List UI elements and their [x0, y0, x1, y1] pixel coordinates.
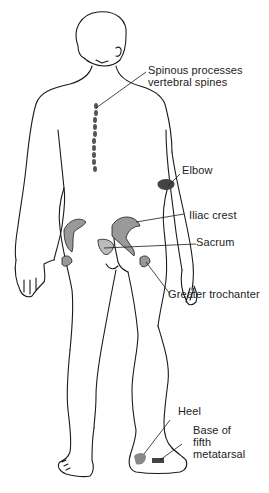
sacrum-shade [98, 239, 114, 254]
label-base-of-fifth-metatarsal: Base of fifth metatarsal [193, 424, 245, 460]
left-arm-inner [54, 130, 65, 260]
right-leg-outer [158, 326, 172, 448]
right-leg-inner [128, 272, 138, 456]
label-elbow: Elbow [182, 164, 212, 176]
hairline [96, 60, 108, 63]
torso-left [15, 66, 92, 260]
waist-left [59, 188, 73, 350]
label-iliac-crest: Iliac crest [189, 209, 237, 221]
right-iliac [112, 217, 140, 256]
ear [116, 47, 121, 56]
label-sacrum: Sacrum [196, 236, 235, 248]
left-hand [15, 260, 54, 297]
right-arm-inner [166, 130, 182, 270]
left-toes [62, 460, 70, 470]
leader-iliac [136, 214, 184, 222]
head-outline [76, 12, 126, 66]
left-trochanter [62, 256, 72, 266]
left-iliac [64, 219, 86, 252]
label-spinous-processes: Spinous processes vertebral spines [148, 64, 243, 88]
elbow-shade [157, 179, 174, 190]
label-greater-trochanter: Greater trochanter [168, 288, 260, 300]
leader-sacrum [104, 244, 196, 248]
label-heel: Heel [178, 405, 201, 417]
left-leg-inner [94, 270, 116, 428]
spinous-processes [92, 103, 98, 172]
waist-right [158, 186, 168, 326]
heel-shade [134, 453, 146, 465]
left-leg-outer [58, 350, 94, 477]
leader-spinous [96, 72, 146, 108]
